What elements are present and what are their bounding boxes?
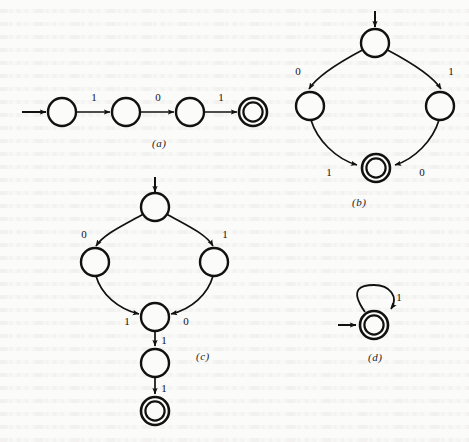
- transition-c-t0-tL: [96, 214, 144, 246]
- state-b-sF-accepting[interactable]: [362, 154, 390, 182]
- state-d-u0-accepting[interactable]: [360, 311, 388, 339]
- transition-label-b-1: 1: [448, 65, 454, 77]
- transition-c-tL-tM: [96, 276, 139, 314]
- state-a-q2[interactable]: [176, 98, 204, 126]
- caption-b: (b): [352, 196, 366, 208]
- panel-a: 1 0 1: [22, 91, 267, 126]
- transition-label-a-1: 0: [155, 91, 161, 103]
- automata-figure: 1 0 1 0 1 1 0: [0, 0, 469, 442]
- state-c-tM[interactable]: [141, 303, 169, 331]
- caption-d: (d): [368, 351, 382, 363]
- transition-label-a-0: 1: [91, 91, 97, 103]
- state-b-sL[interactable]: [296, 92, 324, 120]
- caption-a: (a): [152, 137, 166, 149]
- panel-c: 0 1 1 0 1 1: [81, 177, 228, 425]
- state-c-tN[interactable]: [141, 349, 169, 377]
- transition-label-b-2: 1: [326, 166, 332, 178]
- transition-label-a-2: 1: [218, 91, 224, 103]
- transition-b-s0-sR: [388, 50, 442, 89]
- transition-c-tR-tM: [171, 276, 213, 314]
- transition-label-c-4: 1: [161, 334, 167, 346]
- transition-label-c-3: 0: [183, 315, 189, 327]
- panel-d: 1: [338, 285, 402, 339]
- transition-b-s0-sL: [309, 50, 363, 89]
- state-c-tF-accepting[interactable]: [141, 397, 169, 425]
- state-c-t0[interactable]: [141, 193, 169, 221]
- transition-label-c-5: 1: [161, 382, 167, 394]
- transition-b-sR-sF: [395, 120, 439, 165]
- caption-c: (c): [196, 350, 210, 362]
- transition-label-c-1: 1: [222, 228, 228, 240]
- transition-label-b-0: 0: [295, 65, 301, 77]
- transition-label-d-0: 1: [396, 291, 402, 303]
- state-a-q1[interactable]: [112, 98, 140, 126]
- transition-label-b-3: 0: [419, 166, 425, 178]
- state-a-q3-accepting[interactable]: [239, 98, 267, 126]
- transition-label-c-2: 1: [124, 315, 130, 327]
- state-b-s0[interactable]: [361, 29, 389, 57]
- transition-d-self-loop: [357, 285, 394, 312]
- automata-svg-canvas: 1 0 1 0 1 1 0: [0, 0, 469, 442]
- state-c-tL[interactable]: [81, 248, 109, 276]
- panel-b: 0 1 1 0: [295, 11, 454, 182]
- state-b-sR[interactable]: [426, 92, 454, 120]
- state-c-tR[interactable]: [200, 248, 228, 276]
- transition-b-sL-sF: [311, 120, 357, 165]
- transition-c-t0-tR: [167, 214, 214, 246]
- state-a-q0[interactable]: [48, 98, 76, 126]
- transition-label-c-0: 0: [81, 228, 87, 240]
